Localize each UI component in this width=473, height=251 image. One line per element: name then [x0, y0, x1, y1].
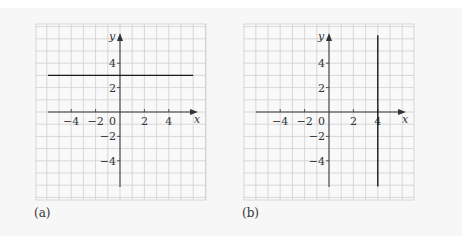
figure-canvas: xy−4−22442−2−40xy−4−22442−2−40 [0, 0, 473, 251]
x-tick-label: −2 [296, 115, 312, 128]
y-tick-label: 2 [109, 82, 116, 95]
y-tick-label: 2 [318, 82, 325, 95]
x-tick-label: −2 [87, 115, 103, 128]
x-tick-label: −4 [63, 115, 79, 128]
origin-label: 0 [318, 115, 325, 128]
x-axis-label: x [402, 113, 409, 126]
y-tick-label: −4 [309, 155, 325, 168]
y-tick-label: −2 [309, 130, 325, 143]
y-tick-label: 4 [318, 57, 325, 70]
caption-b: (b) [242, 206, 259, 220]
y-axis-label: y [317, 30, 325, 43]
y-tick-label: 4 [109, 57, 116, 70]
y-tick-label: −4 [100, 155, 116, 168]
x-tick-label: 2 [350, 115, 357, 128]
y-axis-label: y [108, 30, 116, 43]
y-tick-label: −2 [100, 130, 116, 143]
panel-b: xy−4−22442−2−40 [244, 24, 414, 200]
origin-label: 0 [109, 115, 116, 128]
x-tick-label: 4 [165, 115, 172, 128]
x-axis-label: x [194, 113, 201, 126]
x-tick-label: 2 [141, 115, 148, 128]
panel-a: xy−4−22442−2−40 [36, 24, 206, 200]
x-tick-label: −4 [272, 115, 288, 128]
caption-a: (a) [34, 206, 51, 220]
